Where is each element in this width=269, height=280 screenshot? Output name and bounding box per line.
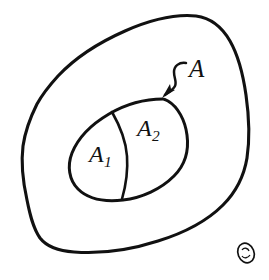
signature-mark-icon — [235, 241, 257, 266]
outer-blob-path — [22, 16, 249, 253]
set-diagram-figure: A A1 A2 — [0, 0, 269, 280]
arrow-head-icon — [162, 84, 175, 98]
signature-mark-glyph — [242, 248, 250, 258]
diagram-canvas — [0, 0, 269, 280]
inner-ellipse-path — [69, 99, 187, 201]
label-subset-a1: A1 — [89, 142, 112, 169]
label-subset-a1-subscript: 1 — [104, 153, 112, 170]
label-subset-a2: A2 — [137, 116, 160, 143]
label-subset-a2-base: A — [137, 115, 152, 141]
partition-curve-path — [112, 112, 127, 199]
label-set-a: A — [189, 56, 204, 81]
label-subset-a2-subscript: 2 — [152, 127, 160, 144]
label-subset-a1-base: A — [89, 141, 104, 167]
